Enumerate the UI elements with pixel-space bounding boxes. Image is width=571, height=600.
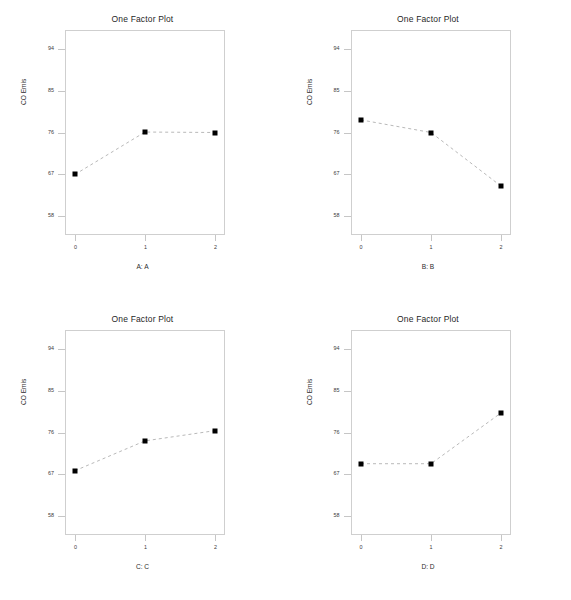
y-tick: 67 [286, 174, 351, 175]
x-tick-mark [431, 535, 432, 541]
panel-title: One Factor Plot [0, 314, 285, 324]
x-tick-mark [215, 235, 216, 241]
y-tick: 85 [286, 91, 351, 92]
x-tick-label: 1 [424, 544, 439, 550]
x-tick-mark [361, 535, 362, 541]
x-axis-label: B: B [286, 263, 571, 270]
y-tick: 94 [0, 49, 65, 50]
data-point-marker [428, 130, 433, 135]
x-tick-label: 2 [208, 244, 223, 250]
y-tick-mark [58, 391, 65, 392]
y-tick: 58 [286, 516, 351, 517]
x-tick-label: 0 [354, 244, 369, 250]
data-point-marker [213, 130, 218, 135]
data-point-marker [143, 130, 148, 135]
x-tick-mark [75, 535, 76, 541]
y-tick-mark [344, 49, 351, 50]
x-tick-mark [215, 535, 216, 541]
y-tick: 76 [0, 133, 65, 134]
y-tick-label: 94 [334, 344, 340, 353]
x-tick-label: 2 [208, 544, 223, 550]
y-tick-label: 85 [334, 386, 340, 395]
y-tick-label: 76 [48, 128, 54, 137]
y-tick-mark [58, 516, 65, 517]
y-tick-label: 58 [48, 211, 54, 220]
x-tick-label: 1 [138, 244, 153, 250]
x-tick-mark [431, 235, 432, 241]
y-tick-label: 67 [334, 169, 340, 178]
y-tick-label: 76 [48, 428, 54, 437]
y-tick-mark [344, 474, 351, 475]
x-tick-mark [145, 535, 146, 541]
x-tick-mark [145, 235, 146, 241]
y-tick-label: 58 [334, 211, 340, 220]
y-tick-label: 94 [334, 44, 340, 53]
y-tick-mark [344, 433, 351, 434]
y-tick-label: 85 [48, 86, 54, 95]
y-tick-label: 85 [48, 386, 54, 395]
panel-title: One Factor Plot [286, 14, 571, 24]
y-tick: 85 [0, 391, 65, 392]
y-tick-mark [344, 516, 351, 517]
y-tick: 67 [0, 174, 65, 175]
data-point-marker [73, 172, 78, 177]
y-tick-mark [58, 91, 65, 92]
y-tick-label: 67 [48, 169, 54, 178]
x-axis-label: C: C [0, 563, 285, 570]
y-axis-label: CO Emis [20, 379, 27, 405]
y-tick-mark [58, 474, 65, 475]
y-tick-label: 85 [334, 86, 340, 95]
panel-b: One Factor Plot CO Emis 5867768594012 B:… [286, 0, 571, 300]
y-tick-mark [344, 174, 351, 175]
x-tick-mark [75, 235, 76, 241]
y-tick-mark [58, 174, 65, 175]
y-tick: 76 [286, 133, 351, 134]
x-tick-label: 0 [354, 544, 369, 550]
y-tick: 67 [0, 474, 65, 475]
y-tick: 58 [0, 516, 65, 517]
y-tick: 85 [0, 91, 65, 92]
data-point-marker [428, 461, 433, 466]
y-tick-label: 76 [334, 428, 340, 437]
y-tick: 76 [286, 433, 351, 434]
y-tick-label: 76 [334, 128, 340, 137]
x-tick-label: 2 [494, 244, 509, 250]
data-point-marker [358, 461, 363, 466]
y-tick: 94 [0, 349, 65, 350]
x-tick-label: 0 [68, 544, 83, 550]
panel-title: One Factor Plot [0, 14, 285, 24]
y-axis-label: CO Emis [306, 379, 313, 405]
panel-d: One Factor Plot CO Emis 5867768594012 D:… [286, 300, 571, 600]
x-axis-label: D: D [286, 563, 571, 570]
x-tick-mark [501, 535, 502, 541]
plot-frame [351, 330, 511, 535]
y-tick-mark [344, 391, 351, 392]
y-tick-mark [58, 433, 65, 434]
x-tick-label: 0 [68, 244, 83, 250]
y-tick: 76 [0, 433, 65, 434]
y-tick: 58 [286, 216, 351, 217]
y-tick: 94 [286, 349, 351, 350]
y-tick-mark [344, 91, 351, 92]
data-point-marker [143, 438, 148, 443]
data-point-marker [73, 468, 78, 473]
y-tick: 94 [286, 49, 351, 50]
data-point-marker [358, 117, 363, 122]
panel-c: One Factor Plot CO Emis 5867768594012 C:… [0, 300, 285, 600]
x-tick-label: 1 [138, 544, 153, 550]
y-tick-mark [344, 349, 351, 350]
x-axis-label: A: A [0, 263, 285, 270]
y-tick-mark [344, 216, 351, 217]
y-tick: 85 [286, 391, 351, 392]
y-tick-label: 67 [334, 469, 340, 478]
y-tick-label: 67 [48, 469, 54, 478]
y-tick-mark [58, 349, 65, 350]
x-tick-label: 1 [424, 244, 439, 250]
data-point-marker [213, 428, 218, 433]
y-tick: 58 [0, 216, 65, 217]
data-point-marker [498, 410, 503, 415]
x-tick-mark [501, 235, 502, 241]
panel-title: One Factor Plot [286, 314, 571, 324]
y-tick-label: 58 [334, 511, 340, 520]
y-tick-mark [58, 133, 65, 134]
